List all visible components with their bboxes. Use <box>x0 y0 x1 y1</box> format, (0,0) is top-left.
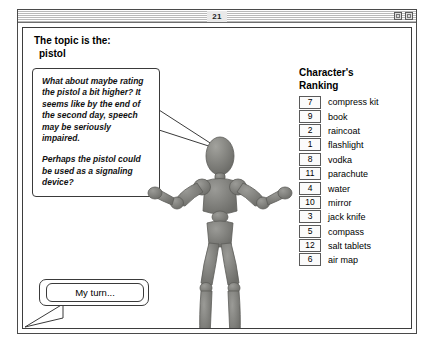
ranking-row[interactable]: 7compress kit <box>299 95 411 109</box>
ranking-number-field[interactable]: 11 <box>299 167 321 180</box>
ranking-row[interactable]: 6air map <box>299 253 411 267</box>
my-turn-button[interactable]: My turn... <box>46 283 144 302</box>
ranking-item-label: parachute <box>328 168 368 180</box>
ranking-item-label: raincoat <box>328 125 360 137</box>
ranking-number-field[interactable]: 10 <box>299 196 321 209</box>
ranking-item-label: flashlight <box>328 139 364 151</box>
ranking-row[interactable]: 12salt tablets <box>299 239 411 253</box>
ranking-number-field[interactable]: 7 <box>299 96 321 109</box>
ranking-number-field[interactable]: 1 <box>299 138 321 151</box>
ranking-row[interactable]: 4water <box>299 181 411 195</box>
ranking-number-field[interactable]: 6 <box>299 253 321 266</box>
ranking-number-field[interactable]: 5 <box>299 225 321 238</box>
character-ranking-panel: Character's Ranking 7compress kit9book2r… <box>299 66 411 268</box>
ranking-row[interactable]: 8vodka <box>299 153 411 167</box>
ranking-number-field[interactable]: 12 <box>299 239 321 252</box>
ranking-number-field[interactable]: 2 <box>299 124 321 137</box>
ranking-number-field[interactable]: 9 <box>299 110 321 123</box>
ranking-row[interactable]: 10mirror <box>299 196 411 210</box>
zoom-box-icon[interactable] <box>394 12 402 20</box>
window-title-bar[interactable]: 21 <box>18 10 416 23</box>
speech-bubble: What about maybe rating the pistol a bit… <box>32 68 160 197</box>
ranking-item-label: book <box>328 111 348 123</box>
speech-bubble-paragraph-1: What about maybe rating the pistol a bit… <box>42 76 151 144</box>
window-title: 21 <box>207 11 227 22</box>
ranking-item-label: water <box>328 183 350 195</box>
collapse-box-icon[interactable] <box>405 12 413 20</box>
ranking-item-label: jack knife <box>328 211 366 223</box>
my-turn-bubble: My turn... <box>39 279 149 306</box>
application-window: 21 The topic is the: pistol What about m… <box>17 9 417 334</box>
topic-block: The topic is the: pistol <box>34 34 111 60</box>
topic-label: The topic is the: <box>34 34 111 47</box>
ranking-list: 7compress kit9book2raincoat1flashlight8v… <box>299 95 411 268</box>
ranking-number-field[interactable]: 4 <box>299 182 321 195</box>
ranking-heading-line-2: Ranking <box>299 79 411 92</box>
window-content-pane: The topic is the: pistol What about mayb… <box>22 27 412 329</box>
ranking-heading-line-1: Character's <box>299 67 354 78</box>
ranking-heading: Character's Ranking <box>299 66 411 92</box>
speech-bubble-paragraph-2: Perhaps the pistol could be used as a si… <box>42 154 151 188</box>
topic-value: pistol <box>34 47 111 60</box>
ranking-number-field[interactable]: 8 <box>299 153 321 166</box>
mannequin-figure-image <box>145 133 295 329</box>
ranking-item-label: compress kit <box>328 96 379 108</box>
ranking-item-label: vodka <box>328 154 352 166</box>
ranking-row[interactable]: 5compass <box>299 225 411 239</box>
ranking-row[interactable]: 3jack knife <box>299 210 411 224</box>
ranking-item-label: salt tablets <box>328 240 371 252</box>
ranking-item-label: compass <box>328 226 364 238</box>
ranking-item-label: mirror <box>328 197 352 209</box>
ranking-row[interactable]: 1flashlight <box>299 138 411 152</box>
ranking-row[interactable]: 11parachute <box>299 167 411 181</box>
ranking-item-label: air map <box>328 254 358 266</box>
ranking-row[interactable]: 9book <box>299 109 411 123</box>
ranking-row[interactable]: 2raincoat <box>299 124 411 138</box>
ranking-number-field[interactable]: 3 <box>299 210 321 223</box>
